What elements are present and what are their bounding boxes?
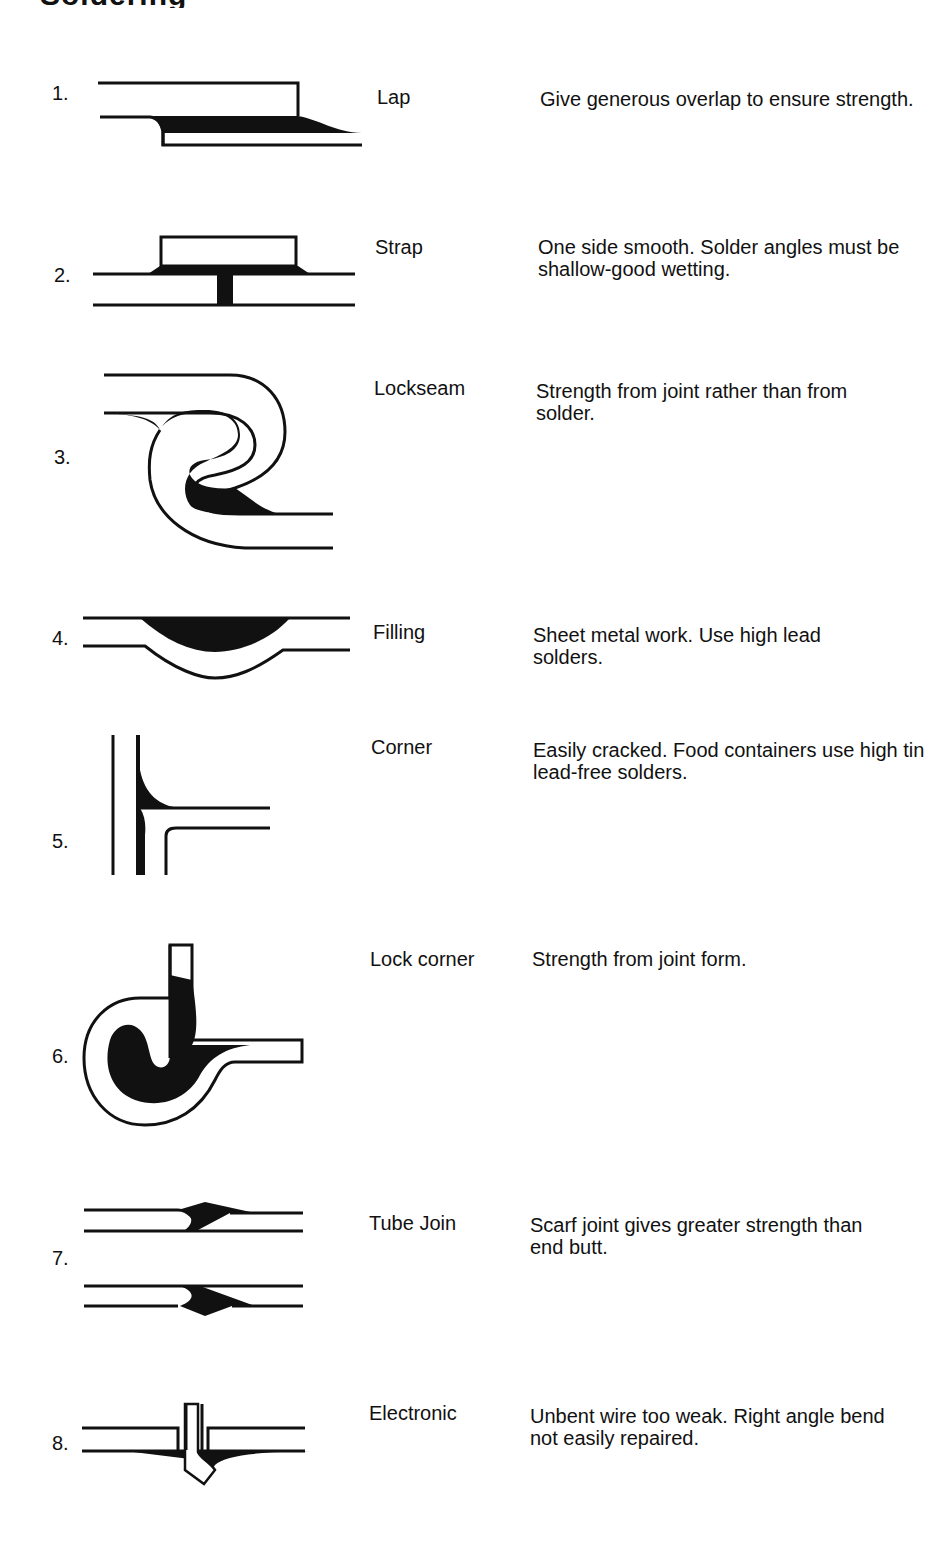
lockseam-joint-diagram xyxy=(104,375,333,548)
joint-number: 1. xyxy=(52,82,69,105)
joint-description: Unbent wire too weak. Right angle bend n… xyxy=(530,1405,900,1449)
joint-number: 8. xyxy=(52,1432,69,1455)
filling-joint-diagram xyxy=(83,618,350,678)
joint-name: Electronic xyxy=(369,1402,457,1425)
joint-name: Lock corner xyxy=(370,948,475,971)
lock-corner-joint-diagram xyxy=(84,945,302,1125)
joint-number: 3. xyxy=(54,446,71,469)
joint-description: Strength from joint form. xyxy=(532,948,942,970)
joint-name: Lap xyxy=(377,86,410,109)
corner-joint-diagram xyxy=(113,735,270,875)
joint-number: 5. xyxy=(52,830,69,853)
joint-description: Easily cracked. Food containers use high… xyxy=(533,739,933,783)
tube-join-diagram xyxy=(84,1202,303,1316)
joint-name: Strap xyxy=(375,236,423,259)
joint-number: 4. xyxy=(52,627,69,650)
electronic-joint-diagram xyxy=(82,1404,310,1484)
lap-joint-diagram xyxy=(98,83,362,146)
joint-name: Tube Join xyxy=(369,1212,456,1235)
joint-name: Filling xyxy=(373,621,425,644)
joint-number: 7. xyxy=(52,1247,69,1270)
joint-number: 6. xyxy=(52,1045,69,1068)
joint-description: Give generous overlap to ensure strength… xyxy=(540,88,950,110)
joint-description: Strength from joint rather than from sol… xyxy=(536,380,856,424)
joint-description: Scarf joint gives greater strength than … xyxy=(530,1214,880,1258)
strap-joint-diagram xyxy=(93,237,355,306)
joint-name: Corner xyxy=(371,736,432,759)
joint-number: 2. xyxy=(54,264,71,287)
joint-description: One side smooth. Solder angles must be s… xyxy=(538,236,948,280)
joint-name: Lockseam xyxy=(374,377,465,400)
joint-description: Sheet metal work. Use high lead solders. xyxy=(533,624,833,668)
